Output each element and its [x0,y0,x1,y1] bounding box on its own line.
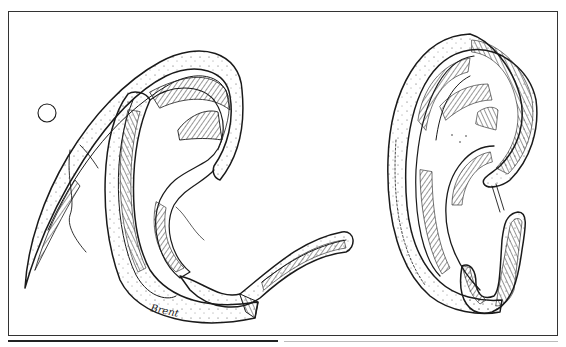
ear-framework-illustration: Brent [0,0,566,347]
right-framework [388,34,537,313]
left-framework: Brent [25,51,353,323]
bottom-rule-dark [8,340,278,342]
bottom-rule-light [284,341,558,342]
